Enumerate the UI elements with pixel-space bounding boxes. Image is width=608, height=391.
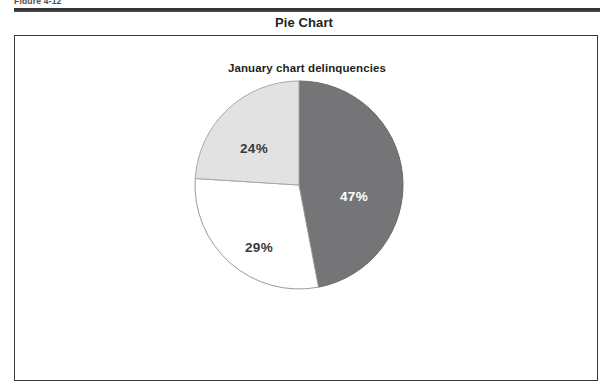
- pie-slice[interactable]: [195, 178, 318, 289]
- section-title: Pie Chart: [0, 15, 608, 30]
- pie-slice[interactable]: [299, 81, 403, 287]
- figure-caption: Figure 4-12: [14, 0, 62, 4]
- chart-panel: January chart delinquencies 47%29%24%: [14, 35, 598, 381]
- pie-slice-label: 24%: [240, 141, 268, 156]
- pie-slice-label: 29%: [245, 240, 273, 255]
- pie-slice-group: [195, 81, 403, 289]
- header-rule: [14, 8, 600, 12]
- chart-title: January chart delinquencies: [15, 62, 599, 74]
- pie-slice[interactable]: [195, 81, 299, 185]
- pie-chart-svg: 47%29%24%: [192, 78, 406, 292]
- pie-chart: 47%29%24%: [192, 78, 406, 292]
- pie-slice-label: 47%: [340, 189, 368, 204]
